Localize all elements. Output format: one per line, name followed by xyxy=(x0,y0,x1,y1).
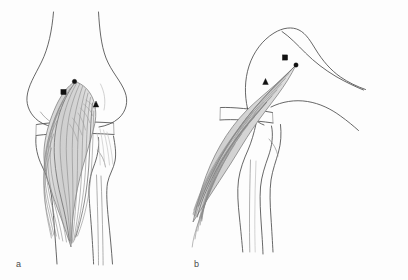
marker-circle-a xyxy=(72,79,76,83)
fibula-b xyxy=(250,160,257,252)
panel-b-lateral-view xyxy=(192,28,365,254)
gastrocnemius-muscle-flap-b xyxy=(192,65,296,247)
marker-square-a xyxy=(61,89,66,94)
panel-label-b: b xyxy=(194,260,199,269)
tibial-plateau-b xyxy=(271,101,359,131)
fibula-a xyxy=(97,175,104,265)
panel-label-a: a xyxy=(16,260,21,269)
marker-square-b xyxy=(282,55,287,60)
panel-a-anterior-view xyxy=(27,12,127,265)
proximal-tibia-b xyxy=(238,124,281,254)
marker-circle-b xyxy=(294,63,298,67)
anatomical-figure: a b xyxy=(0,0,408,280)
figure-canvas xyxy=(0,0,408,280)
marker-triangle-b xyxy=(263,79,269,85)
gastrocnemius-muscle-flap-a xyxy=(44,82,96,248)
